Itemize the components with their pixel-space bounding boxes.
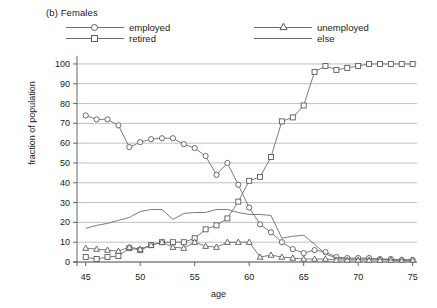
x-tick-45: 45 [81, 272, 91, 282]
x-tick-60: 60 [244, 272, 254, 282]
x-axis-tick-labels: 45505560657075 [0, 0, 437, 308]
x-tick-75: 75 [408, 272, 418, 282]
x-tick-55: 55 [190, 272, 200, 282]
x-tick-70: 70 [353, 272, 363, 282]
chart-figure: (b) Females employed unemployed [0, 0, 437, 308]
y-axis-label: fraction of population [27, 53, 37, 193]
x-tick-50: 50 [135, 272, 145, 282]
x-tick-65: 65 [299, 272, 309, 282]
x-axis-label: age [0, 289, 437, 299]
